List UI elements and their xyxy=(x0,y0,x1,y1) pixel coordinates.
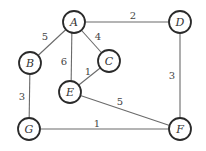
weight-a-b: 5 xyxy=(42,31,48,42)
node-a: A xyxy=(63,11,85,33)
weight-g-f: 1 xyxy=(94,118,100,129)
weight-b-g: 3 xyxy=(19,91,25,102)
node-d: D xyxy=(169,11,191,33)
node-b: B xyxy=(19,52,41,74)
node-label-d: D xyxy=(175,16,185,29)
node-label-g: G xyxy=(25,123,34,136)
weighted-graph: 5 2 6 4 1 3 5 3 1 A B C D E F G xyxy=(0,0,206,151)
weight-c-e: 1 xyxy=(85,66,91,77)
weight-d-f: 3 xyxy=(169,70,175,81)
weight-e-f: 5 xyxy=(117,96,123,107)
node-label-a: A xyxy=(69,16,78,29)
node-c: C xyxy=(98,50,120,72)
edge-e-f xyxy=(70,92,180,129)
weight-a-d: 2 xyxy=(130,10,136,21)
node-f: F xyxy=(169,118,191,140)
weight-a-e: 6 xyxy=(61,56,67,67)
node-label-f: F xyxy=(175,123,184,136)
node-label-e: E xyxy=(65,86,74,99)
node-label-c: C xyxy=(105,55,114,68)
node-e: E xyxy=(59,81,81,103)
node-label-b: B xyxy=(25,57,34,70)
node-g: G xyxy=(18,118,40,140)
weight-a-c: 4 xyxy=(95,31,101,42)
